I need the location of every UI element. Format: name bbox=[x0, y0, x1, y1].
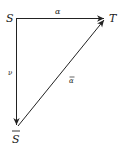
node-label-t: T bbox=[109, 12, 118, 25]
edge-label-alpha-bar: α bbox=[69, 77, 74, 85]
edge-label-alpha: α bbox=[55, 7, 61, 16]
commutative-triangle-diagram: S T S α ν α bbox=[0, 0, 123, 147]
node-label-s: S bbox=[6, 12, 14, 25]
node-label-s-bar: S bbox=[12, 133, 20, 146]
arrow-sbar-to-t bbox=[18, 20, 104, 126]
edge-label-nu: ν bbox=[8, 69, 13, 77]
